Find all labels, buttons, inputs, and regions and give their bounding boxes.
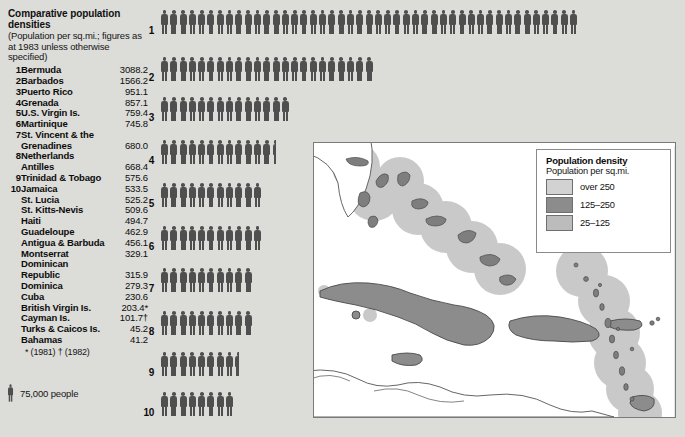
person-icon <box>170 352 177 376</box>
person-icon <box>533 10 540 34</box>
person-icon <box>459 10 466 34</box>
person-icon <box>291 10 298 34</box>
person-icon <box>254 10 261 34</box>
legend-item: 125–250 <box>546 197 670 213</box>
person-icon <box>198 268 205 292</box>
person-icon <box>189 183 196 207</box>
person-icon <box>180 352 187 376</box>
person-icon <box>384 10 391 34</box>
person-icon <box>245 57 252 81</box>
pictogram-row: 9 <box>150 352 242 376</box>
density-table: 1Bermuda3088.22Barbados1566.23Puerto Ric… <box>8 65 148 346</box>
legend-title: Population density <box>546 155 670 166</box>
person-icon <box>161 268 168 292</box>
person-icon <box>245 10 252 34</box>
density-value: 951.1 <box>116 87 148 98</box>
rank-number <box>8 259 21 270</box>
person-icon <box>161 140 168 164</box>
legend-label: 125–250 <box>580 200 615 210</box>
person-icon <box>180 183 187 207</box>
person-icon <box>189 268 196 292</box>
person-icon <box>198 226 205 250</box>
person-icon-partial <box>273 140 280 164</box>
person-icon <box>207 226 214 250</box>
pictogram-row: 5 <box>150 183 261 207</box>
data-panel: Comparative population densities (Popula… <box>0 0 150 437</box>
pictogram-figures <box>161 226 261 250</box>
pictogram-row-label: 7 <box>141 283 154 294</box>
person-icon <box>356 10 363 34</box>
pictogram-row: 1 <box>150 10 577 34</box>
pictogram-figures <box>161 183 261 207</box>
person-icon <box>207 352 214 376</box>
pictogram-row: 4 <box>150 140 280 164</box>
person-icon <box>180 226 187 250</box>
person-icon <box>189 311 196 335</box>
density-value: 680.0 <box>116 141 148 152</box>
person-icon <box>226 392 233 416</box>
person-icon <box>189 97 196 121</box>
rank-number <box>8 303 21 314</box>
pictogram-row: 2 <box>150 57 373 81</box>
person-icon <box>412 10 419 34</box>
person-icon <box>356 57 363 81</box>
person-icon <box>226 57 233 81</box>
pictogram-row-label: 8 <box>141 326 154 337</box>
person-icon <box>245 97 252 121</box>
table-row: 3Puerto Rico951.1 <box>8 87 148 98</box>
legend-item: over 250 <box>546 179 670 195</box>
person-icon <box>189 10 196 34</box>
legend-label: 25–125 <box>580 218 610 228</box>
person-icon <box>477 10 484 34</box>
person-icon <box>217 352 224 376</box>
rank-number: 7 <box>8 130 21 141</box>
person-icon <box>254 140 261 164</box>
person-icon <box>217 10 224 34</box>
legend-subtitle: Population per sq.mi. <box>546 166 670 177</box>
rank-number <box>8 270 21 281</box>
rank-number <box>8 216 21 227</box>
person-icon <box>403 10 410 34</box>
person-icon <box>198 140 205 164</box>
person-icon <box>207 97 214 121</box>
person-icon <box>235 183 242 207</box>
person-icon <box>328 57 335 81</box>
legend-swatch <box>546 197 573 213</box>
rank-number <box>8 249 21 260</box>
person-icon <box>449 10 456 34</box>
person-icon <box>161 183 168 207</box>
person-icon <box>235 140 242 164</box>
person-icon <box>319 57 326 81</box>
pictogram-figures <box>161 140 280 164</box>
rank-number <box>8 335 21 346</box>
person-icon <box>235 10 242 34</box>
person-icon <box>254 57 261 81</box>
person-icon <box>291 57 298 81</box>
legend-label: over 250 <box>580 182 615 192</box>
legend-swatch <box>546 179 573 195</box>
pictogram-row-label: 4 <box>141 155 154 166</box>
rank-number <box>8 281 21 292</box>
person-icon <box>366 57 373 81</box>
person-icon <box>180 392 187 416</box>
infographic-root: Comparative population densities (Popula… <box>0 0 685 437</box>
pictogram-row-label: 2 <box>141 72 154 83</box>
person-icon <box>468 10 475 34</box>
legend-item: 25–125 <box>546 215 670 231</box>
person-icon <box>226 352 233 376</box>
person-icon <box>505 10 512 34</box>
person-icon <box>496 10 503 34</box>
person-icon <box>282 97 289 121</box>
scale-key-label: 75,000 people <box>20 388 78 399</box>
pictogram-row: 10 <box>150 392 233 416</box>
pictogram-row-label: 9 <box>141 367 154 378</box>
person-icon <box>207 268 214 292</box>
person-icon <box>180 268 187 292</box>
pictogram-row-label: 5 <box>141 198 154 209</box>
person-icon <box>245 311 252 335</box>
person-icon <box>245 140 252 164</box>
person-icon <box>226 268 233 292</box>
person-icon <box>170 10 177 34</box>
map-legend: Population density Population per sq.mi.… <box>536 149 671 253</box>
person-icon <box>180 311 187 335</box>
